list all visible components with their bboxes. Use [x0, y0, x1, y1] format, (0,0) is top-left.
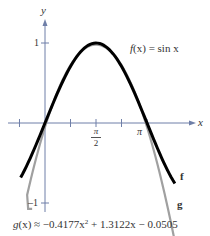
- f-equation-rest: (x) = sin x: [133, 42, 179, 54]
- y-axis-arrow-icon: [43, 19, 48, 26]
- y-tick-label-1: 1: [34, 38, 39, 48]
- x-tick-pi-half-numerator: π: [94, 126, 99, 136]
- y-axis-label: y: [41, 5, 46, 16]
- y-tick-label-neg1-value: 1: [33, 197, 38, 208]
- x-tick-pi-half-denominator: 2: [94, 138, 99, 148]
- g-equation-body: (x) ≈ −0.4177x: [19, 218, 85, 230]
- f-curve-end-label: f: [180, 171, 184, 182]
- g-equation-tail: + 1.3122x − 0.0505: [88, 218, 177, 230]
- g-curve-end-label: g: [177, 199, 183, 210]
- x-axis-arrow-icon: [189, 121, 196, 126]
- y-tick-label-neg1: –1: [28, 198, 38, 208]
- f-equation-label: f(x) = sin x: [130, 43, 179, 54]
- series-f-curve: [21, 43, 175, 184]
- x-tick-label-pi-half: π 2: [91, 127, 101, 148]
- x-tick-label-pi: π: [137, 127, 142, 137]
- x-axis-label: x: [198, 117, 203, 128]
- g-equation-label: g(x) ≈ −0.4177x2 + 1.3122x − 0.0505: [13, 219, 178, 230]
